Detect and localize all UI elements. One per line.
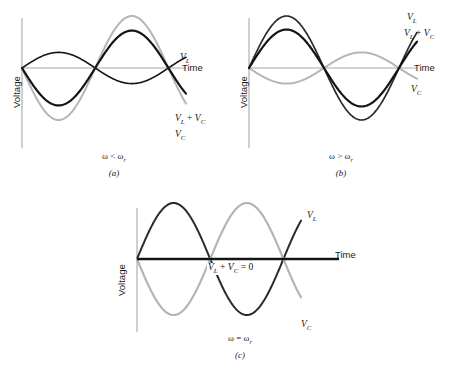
x-axis-label-c: Time (335, 250, 356, 260)
curve-label-vl-plus-vc-b: VL + VC (404, 29, 434, 41)
x-axis-label-b: Time (414, 63, 435, 73)
curve-label-vl-c: VL (307, 211, 317, 223)
panel-b: Voltage Time VL VL + VC VC ω > ωr (b) (227, 0, 455, 188)
condition-label-a: ω < ωr (0, 152, 228, 163)
condition-label-c: ω = ωr (95, 334, 385, 345)
curve-label-vc-a: VC (175, 130, 185, 142)
panel-caption-b: (b) (227, 169, 455, 178)
curve-label-vl-b: VL (407, 13, 417, 25)
panel-caption-a: (a) (0, 169, 228, 178)
y-axis-label-c: Voltage (117, 264, 127, 296)
waveform-plot-c (95, 186, 385, 374)
panel-c: Voltage Time VL VC VL + VC = 0 ω = ωr (c… (95, 186, 385, 374)
curve-label-vl-a: VL (180, 53, 190, 65)
y-axis-label-a: Voltage (12, 76, 22, 108)
condition-label-b: ω > ωr (227, 152, 455, 163)
curve-label-vc-c: VC (301, 320, 311, 332)
curve-label-vl-plus-vc-a: VL + VC (175, 114, 205, 126)
panel-caption-c: (c) (95, 351, 385, 360)
curve-label-vc-b: VC (411, 85, 421, 97)
y-axis-label-b: Voltage (239, 76, 249, 108)
panel-a: Voltage Time VL VL + VC VC ω < ωr (a) (0, 0, 228, 188)
curve-label-sum-zero-c: VL + VC = 0 (207, 263, 254, 275)
